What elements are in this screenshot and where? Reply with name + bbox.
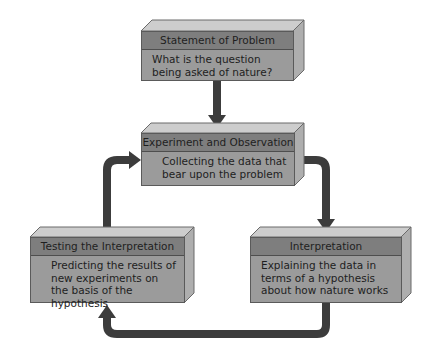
- box-statement-of-problem: Statement of Problem What is the questio…: [141, 20, 304, 81]
- arrow-statement-to-experiment: [208, 80, 226, 128]
- box-text: What is the question being asked of natu…: [142, 50, 293, 78]
- box-title: Statement of Problem: [142, 32, 293, 50]
- box-experiment-and-observation: Experiment and Observation Collecting th…: [141, 123, 304, 186]
- box-title: Experiment and Observation: [142, 134, 294, 152]
- box-title: Testing the Interpretation: [31, 238, 184, 256]
- box-interpretation: Interpretation Explaining the data in te…: [250, 227, 411, 303]
- arrowhead-experiment: [129, 151, 141, 169]
- box-title: Interpretation: [251, 238, 401, 256]
- box-text: Predicting the results of new experiment…: [31, 256, 184, 309]
- arrow-testing-to-experiment: [107, 160, 130, 236]
- box-text: Collecting the data that bear upon the p…: [142, 152, 294, 180]
- box-text: Explaining the data in terms of a hypoth…: [251, 256, 401, 297]
- box-testing-the-interpretation: Testing the Interpretation Predicting th…: [30, 227, 194, 303]
